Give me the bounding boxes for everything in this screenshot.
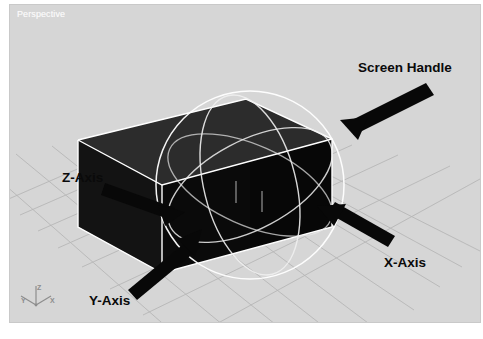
callout-label-y-axis: Y-Axis bbox=[89, 293, 130, 308]
callout-label-screen-handle: Screen Handle bbox=[358, 60, 452, 75]
viewport-canvas[interactable] bbox=[10, 5, 480, 322]
callout-label-x-axis: X-Axis bbox=[384, 255, 426, 270]
callout-label-z-axis: Z-Axis bbox=[62, 170, 103, 185]
axis-gizmo-y-label: Y bbox=[21, 297, 26, 304]
screenshot-root: Perspective Screen Handle Z-Axis X-Axis … bbox=[0, 0, 483, 339]
viewport-label: Perspective bbox=[17, 9, 65, 20]
perspective-viewport[interactable]: Perspective Screen Handle Z-Axis X-Axis … bbox=[10, 5, 480, 322]
axis-gizmo-z-label: Z bbox=[37, 284, 41, 291]
axis-gizmo-x-label: X bbox=[50, 297, 55, 304]
